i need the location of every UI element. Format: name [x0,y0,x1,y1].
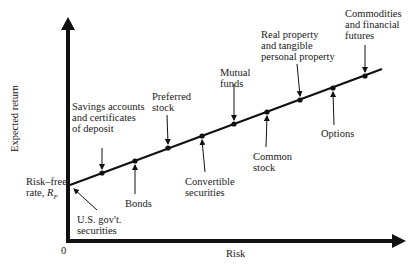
point-bonds [132,158,137,163]
origin-label: 0 [61,245,66,256]
label-savings-accounts: Savings accounts and certificates of dep… [72,101,145,134]
label-convertible-securities: Convertible securities [185,176,235,198]
point-mutual-funds [231,121,236,126]
y-axis-arrowhead-icon [61,17,75,30]
point-convertible [199,133,204,138]
point-options [330,85,335,90]
point-savings [99,170,104,175]
x-axis-label: Risk [226,248,245,259]
point-real-property [297,97,302,102]
x-axis-arrowhead-icon [392,234,406,248]
label-preferred-stock: Preferred stock [152,91,191,113]
label-options: Options [321,128,354,139]
label-us-govt-securities: U.S. gov't. securities [77,214,121,236]
y-axis-label: Expected return [9,85,20,152]
point-commodities [362,73,367,78]
point-common-stock [264,109,269,114]
risk-free-rate-label: Risk–free rate, RF [26,176,67,203]
label-bonds: Bonds [125,198,152,209]
label-mutual-funds: Mutual funds [220,67,250,89]
label-common-stock: Common stock [253,151,292,173]
label-real-property: Real property and tangible personal prop… [261,29,335,62]
x-axis [66,234,406,248]
point-preferred-stock [165,145,170,150]
label-commodities: Commodities and financial futures [345,8,402,41]
